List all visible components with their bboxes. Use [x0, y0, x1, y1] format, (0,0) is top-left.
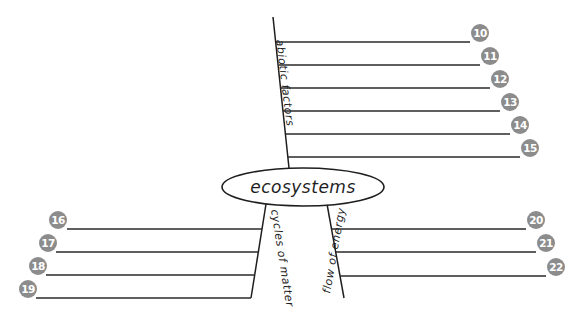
blank-22[interactable]: 22: [340, 258, 565, 276]
branch-flow-of-energy: flow of energy 20 21 22: [320, 204, 565, 298]
number-label: 21: [539, 237, 553, 249]
number-label: 16: [51, 214, 65, 226]
blank-21[interactable]: 21: [336, 234, 555, 252]
branch-label-abiotic: abiotic factors: [273, 39, 297, 127]
number-label: 20: [529, 214, 543, 226]
blank-13[interactable]: 13: [283, 93, 519, 111]
number-label: 22: [549, 261, 563, 273]
number-label: 11: [483, 50, 497, 62]
number-label: 19: [21, 283, 35, 295]
number-label: 18: [31, 260, 45, 272]
number-label: 14: [513, 119, 527, 131]
number-label: 12: [493, 73, 507, 85]
number-label: 13: [503, 96, 517, 108]
center-label: ecosystems: [250, 177, 356, 197]
branch-cycles-of-matter: cycles of matter 16 17 18 19: [19, 204, 296, 309]
blank-19[interactable]: 19: [19, 280, 251, 298]
branch-label-cycles: cycles of matter: [268, 208, 296, 308]
branch-stem-cycles: [251, 204, 266, 298]
branch-abiotic-factors: abiotic factors 10 11 12 13 14: [273, 17, 539, 168]
blank-14[interactable]: 14: [286, 116, 529, 134]
center-node: ecosystems: [222, 168, 384, 206]
blank-15[interactable]: 15: [288, 139, 539, 157]
blank-20[interactable]: 20: [331, 211, 545, 229]
blank-11[interactable]: 11: [279, 47, 499, 65]
blank-10[interactable]: 10: [276, 24, 489, 42]
number-label: 15: [523, 142, 537, 154]
blank-17[interactable]: 17: [39, 234, 258, 252]
number-label: 17: [41, 237, 55, 249]
number-label: 10: [473, 27, 487, 39]
branch-label-energy: flow of energy: [320, 206, 348, 294]
blank-18[interactable]: 18: [29, 257, 255, 275]
blank-16[interactable]: 16: [49, 211, 262, 229]
concept-map: abiotic factors 10 11 12 13 14: [0, 0, 580, 320]
blank-12[interactable]: 12: [281, 70, 509, 88]
